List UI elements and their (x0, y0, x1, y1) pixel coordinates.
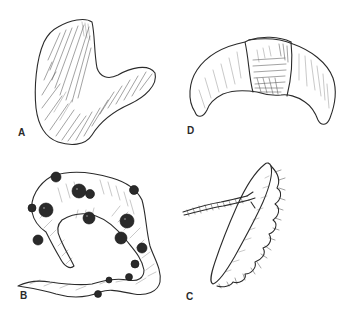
panel-d: C (175, 158, 347, 317)
nodules (28, 172, 147, 298)
panel-c: D (175, 0, 347, 155)
frilled-structure-illustration (175, 158, 347, 317)
panel-a: A (0, 0, 170, 155)
crescent-organ-illustration (175, 0, 347, 155)
panel-b: B (0, 158, 172, 317)
panel-label-d: C (186, 292, 193, 302)
panel-label-c: D (187, 126, 194, 136)
hooked-organ-illustration (0, 0, 170, 155)
panel-label-b: B (20, 291, 27, 301)
panel-label-a: A (18, 128, 25, 138)
illustration-figure: A D (0, 0, 347, 317)
